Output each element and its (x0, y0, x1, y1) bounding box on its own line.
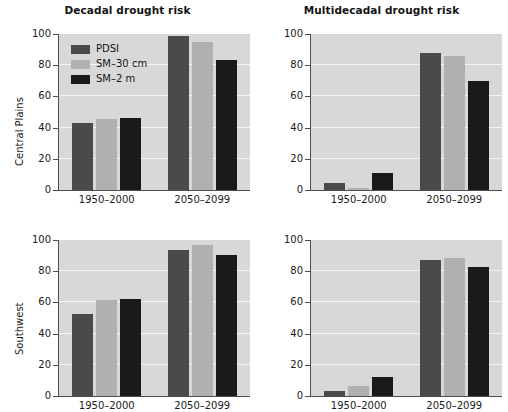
y-axis-tick-label: 80 (25, 60, 51, 70)
bar (192, 245, 213, 396)
y-axis-tick (305, 190, 310, 191)
y-axis-tick-label: 20 (277, 154, 303, 164)
legend-label: SM–30 cm (96, 59, 147, 69)
bar (216, 60, 237, 190)
bar (324, 183, 345, 190)
y-axis-tick-label: 0 (25, 185, 51, 195)
y-axis-tick-label: 100 (277, 235, 303, 245)
y-axis-tick (53, 240, 58, 241)
x-axis-tick-label: 1950–2000 (62, 194, 152, 205)
y-axis-tick (305, 334, 310, 335)
legend-label: SM–2 m (96, 74, 135, 84)
y-axis-tick (305, 96, 310, 97)
y-axis-tick-label: 80 (277, 266, 303, 276)
legend-item: PDSI (71, 42, 147, 56)
y-axis-tick (53, 396, 58, 397)
y-axis-tick (305, 396, 310, 397)
bar (120, 299, 141, 396)
y-axis-tick (305, 302, 310, 303)
y-axis-tick-label: 20 (25, 360, 51, 370)
plot-area (311, 34, 502, 190)
bar (468, 81, 489, 190)
gridline (311, 64, 502, 65)
y-axis-tick-label: 0 (277, 391, 303, 401)
panel-title: Multidecadal drought risk (255, 4, 508, 16)
legend-item: SM–2 m (71, 72, 147, 86)
bar (444, 56, 465, 190)
bar (468, 267, 489, 396)
y-axis-tick-label: 20 (25, 154, 51, 164)
x-axis-tick-label: 1950–2000 (314, 194, 404, 205)
x-axis-line (310, 190, 502, 191)
y-axis-tick-label: 0 (25, 391, 51, 401)
y-axis-tick (53, 365, 58, 366)
y-axis-tick (305, 34, 310, 35)
x-axis-line (58, 396, 250, 397)
y-axis-tick-label: 20 (277, 360, 303, 370)
y-axis-tick-label: 60 (25, 297, 51, 307)
y-axis-tick (305, 159, 310, 160)
y-axis-tick (305, 365, 310, 366)
y-axis-tick-label: 60 (277, 91, 303, 101)
y-axis-line (310, 240, 311, 397)
y-axis-tick (53, 128, 58, 129)
x-axis-line (310, 396, 502, 397)
y-axis-tick-label: 40 (25, 329, 51, 339)
panel-title: Decadal drought risk (0, 4, 255, 16)
y-axis-tick-label: 80 (25, 266, 51, 276)
bar (120, 118, 141, 190)
legend-item: SM–30 cm (71, 57, 147, 71)
panel-southwest-multidecadal: Years 0204060801001950–20002050–2099 (255, 210, 508, 410)
y-axis-tick-label: 100 (25, 235, 51, 245)
panel-central-plains-decadal: Decadal drought risk Central Plains PDSI… (0, 4, 255, 204)
y-axis-line (58, 34, 59, 191)
plot-area (59, 240, 250, 396)
legend-swatch-icon (71, 75, 90, 84)
y-axis-tick-label: 40 (277, 123, 303, 133)
bar (216, 255, 237, 396)
y-axis-tick-label: 100 (25, 29, 51, 39)
y-axis-tick-label: 80 (277, 60, 303, 70)
y-axis-tick (53, 190, 58, 191)
bar (348, 386, 369, 396)
legend: PDSISM–30 cmSM–2 m (71, 42, 147, 87)
panel-southwest-decadal: Southwest Years 0204060801001950–2000205… (0, 210, 255, 410)
y-axis-tick-label: 60 (277, 297, 303, 307)
bar (192, 42, 213, 190)
row-label-southwest: Southwest (14, 302, 25, 355)
x-axis-tick-label: 2050–2099 (157, 194, 247, 205)
bar (420, 260, 441, 397)
bar (96, 300, 117, 396)
bar (168, 250, 189, 396)
y-axis-tick (305, 65, 310, 66)
y-axis-tick-label: 0 (277, 185, 303, 195)
bar (372, 173, 393, 190)
x-axis-tick-label: 2050–2099 (409, 194, 499, 205)
bar (72, 123, 93, 190)
x-axis-tick-label: 2050–2099 (157, 400, 247, 411)
bar (96, 119, 117, 190)
y-axis-tick-label: 60 (25, 91, 51, 101)
panel-central-plains-multidecadal: Multidecadal drought risk 02040608010019… (255, 4, 508, 204)
legend-label: PDSI (96, 44, 119, 54)
y-axis-tick (305, 271, 310, 272)
y-axis-tick (53, 271, 58, 272)
y-axis-tick (53, 159, 58, 160)
drought-risk-figure: Decadal drought risk Central Plains PDSI… (0, 0, 508, 412)
bar (444, 258, 465, 396)
bar (72, 314, 93, 396)
bar (420, 53, 441, 190)
bar (372, 377, 393, 397)
y-axis-line (58, 240, 59, 397)
bar (168, 36, 189, 190)
x-axis-line (58, 190, 250, 191)
x-axis-tick-label: 1950–2000 (314, 400, 404, 411)
y-axis-tick (53, 65, 58, 66)
y-axis-tick (53, 96, 58, 97)
x-axis-tick-label: 1950–2000 (62, 400, 152, 411)
legend-swatch-icon (71, 45, 90, 54)
y-axis-tick (305, 240, 310, 241)
y-axis-tick (53, 334, 58, 335)
row-label-central-plains: Central Plains (14, 97, 25, 166)
x-axis-tick-label: 2050–2099 (409, 400, 499, 411)
